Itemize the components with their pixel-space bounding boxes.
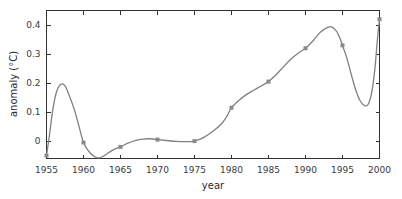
x-tick-label: 1990 [294, 165, 317, 175]
anomaly-series-line [47, 19, 380, 158]
y-axis-title: anomaly (°C) [8, 51, 19, 117]
line-chart: 1955196019651970197519801985199019952000… [0, 0, 402, 199]
y-tick-label: 0 [35, 136, 41, 146]
x-tick-label: 1965 [109, 165, 132, 175]
x-tick-label: 1985 [257, 165, 280, 175]
y-tick-label: 0.1 [26, 107, 40, 117]
data-point-marker [341, 43, 345, 47]
data-point-marker [82, 141, 86, 145]
data-point-marker [378, 17, 382, 21]
x-tick-label: 2000 [368, 165, 391, 175]
y-tick-label: 0.3 [26, 49, 40, 59]
data-point-marker [156, 138, 160, 142]
data-point-marker [230, 106, 234, 110]
x-tick-label: 1975 [183, 165, 206, 175]
data-point-marker [304, 46, 308, 50]
x-tick-label: 1955 [35, 165, 58, 175]
data-point-marker [193, 139, 197, 143]
x-axis-ticks [47, 11, 380, 159]
x-tick-label: 1995 [331, 165, 354, 175]
x-tick-label: 1960 [72, 165, 95, 175]
y-tick-label: 0.2 [26, 78, 40, 88]
y-axis-ticks [47, 25, 380, 141]
chart-figure: 1955196019651970197519801985199019952000… [0, 0, 402, 199]
data-point-marker [119, 145, 123, 149]
data-point-marker [45, 154, 49, 158]
y-tick-label: 0.4 [26, 20, 41, 30]
x-axis-title: year [202, 180, 225, 191]
anomaly-series-markers [45, 17, 382, 157]
data-point-marker [267, 80, 271, 84]
x-tick-label: 1970 [146, 165, 169, 175]
x-axis-tick-labels: 1955196019651970197519801985199019952000 [35, 165, 391, 175]
plot-frame [47, 11, 380, 159]
y-axis-tick-labels: 00.10.20.30.4 [26, 20, 41, 146]
x-tick-label: 1980 [220, 165, 243, 175]
